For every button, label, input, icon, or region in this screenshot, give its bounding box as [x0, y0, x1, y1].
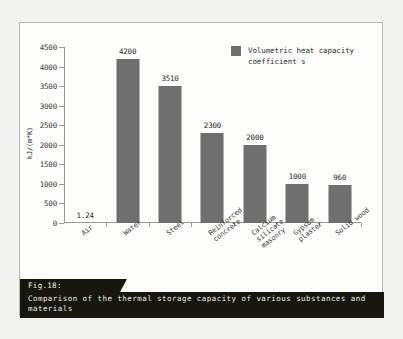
caption-body: Comparison of the thermal storage capaci…	[20, 292, 384, 318]
bar-slot: 960	[319, 47, 361, 223]
figure-frame: kJ/(m*K) Volumetric heat capacity coeffi…	[19, 22, 383, 316]
x-axis-tick	[191, 223, 192, 227]
y-axis-tick	[59, 223, 64, 224]
y-axis-tick-label: 2500	[40, 121, 57, 130]
bar	[243, 145, 266, 223]
plot-area: 050010001500200025003000350040004500 1.2…	[64, 47, 361, 223]
x-axis-tick	[149, 223, 150, 227]
bar	[286, 184, 309, 223]
y-axis-tick-label: 3500	[40, 82, 57, 91]
bar-value-label: 960	[333, 173, 346, 182]
caption-tag: Fig.18:	[28, 281, 62, 290]
y-axis-tick-label: 4500	[40, 43, 57, 52]
x-axis-tick	[106, 223, 107, 227]
bar-value-label: 2000	[246, 133, 263, 142]
caption-text: Comparison of the thermal storage capaci…	[20, 294, 384, 314]
y-axis-tick-label: 1500	[40, 160, 57, 169]
bar-slot: 3510	[149, 47, 191, 223]
y-axis-title: kJ/(m*K)	[26, 127, 34, 159]
figure-caption: Fig.18: Comparison of the thermal storag…	[20, 279, 384, 318]
bar-slot: 2300	[191, 47, 233, 223]
bar-value-label: 2300	[204, 121, 221, 130]
bar	[328, 185, 351, 223]
bar-chart: kJ/(m*K) Volumetric heat capacity coeffi…	[20, 23, 384, 273]
y-axis-tick-label: 4000	[40, 62, 57, 71]
bar	[159, 86, 182, 223]
bar	[116, 59, 139, 223]
y-axis-tick-label: 500	[44, 199, 57, 208]
bar	[201, 133, 224, 223]
bar-value-label: 1.24	[77, 211, 94, 220]
x-axis-category-label: Air	[80, 224, 94, 238]
y-axis-tick-label: 3000	[40, 101, 57, 110]
figure-root: kJ/(m*K) Volumetric heat capacity coeffi…	[0, 0, 403, 339]
y-axis-tick-label: 0	[53, 219, 57, 228]
x-axis-tick	[361, 223, 362, 227]
bar-slot: 2000	[234, 47, 276, 223]
y-axis-tick-label: 2000	[40, 140, 57, 149]
bar-slot: 1000	[276, 47, 318, 223]
bar-value-label: 3510	[161, 74, 178, 83]
bar-value-label: 4200	[119, 47, 136, 56]
bar-slot: 4200	[106, 47, 148, 223]
bar-value-label: 1000	[289, 172, 306, 181]
y-axis-tick-label: 1000	[40, 179, 57, 188]
bar-slot: 1.24	[64, 47, 106, 223]
caption-tab: Fig.18:	[20, 279, 120, 292]
